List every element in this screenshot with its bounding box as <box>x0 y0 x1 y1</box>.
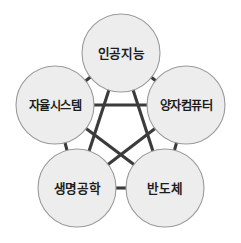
node-label-ai: 인공지능 <box>98 46 145 61</box>
node-autonomous[interactable]: 자율시스템 <box>16 66 94 144</box>
network-graph-svg: 인공지능양자컴퓨터반도체생명공학자율시스템 <box>0 0 241 243</box>
node-ai[interactable]: 인공지능 <box>82 14 160 92</box>
node-bio[interactable]: 생명공학 <box>38 149 116 227</box>
node-quantum[interactable]: 양자컴퓨터 <box>147 66 225 144</box>
nodes-group: 인공지능양자컴퓨터반도체생명공학자율시스템 <box>16 14 225 227</box>
node-label-bio: 생명공학 <box>54 181 101 196</box>
node-label-autonomous: 자율시스템 <box>29 98 82 113</box>
edge-autonomous-ai <box>85 77 91 81</box>
pentagon-network-diagram: 인공지능양자컴퓨터반도체생명공학자율시스템 <box>0 0 241 243</box>
edge-bio-autonomous <box>65 142 67 151</box>
node-semicon[interactable]: 반도체 <box>126 149 204 227</box>
node-label-quantum: 양자컴퓨터 <box>160 98 212 113</box>
node-label-semicon: 반도체 <box>147 181 182 196</box>
edge-quantum-semicon <box>174 142 176 150</box>
